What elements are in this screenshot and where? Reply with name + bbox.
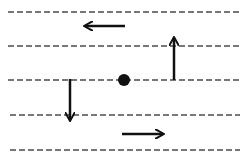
charge-dot: [118, 74, 130, 86]
field-diagram: [0, 0, 245, 161]
